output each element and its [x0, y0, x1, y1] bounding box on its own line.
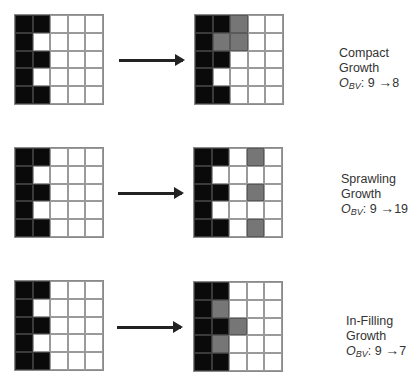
- grid-cell: [15, 148, 33, 166]
- grid-cell: [50, 299, 68, 317]
- metric-to: 7: [399, 344, 406, 358]
- infilling-label: In-Filling Growth OBV: 9 →7: [346, 314, 406, 362]
- grid-cell: [229, 300, 247, 318]
- grid-cell: [85, 68, 103, 86]
- grid-cell: [33, 86, 51, 104]
- grid-cell: [229, 318, 247, 336]
- grid-cell: [247, 318, 265, 336]
- grid-cell: [264, 318, 282, 336]
- grid-cell: [33, 352, 51, 370]
- grid-cell: [85, 352, 103, 370]
- grid-cell: [264, 166, 282, 184]
- grid-cell: [68, 334, 86, 352]
- grid-cell: [213, 15, 231, 33]
- sprawling-title-line2: Growth: [341, 187, 408, 202]
- grid-cell: [213, 33, 231, 51]
- infilling-after-grid: [193, 281, 283, 372]
- grid-cell: [264, 335, 282, 353]
- grid-cell: [33, 166, 51, 184]
- grid-cell: [68, 352, 86, 370]
- grid-cell: [264, 219, 282, 237]
- grid-cell: [33, 33, 51, 51]
- grid-cell: [50, 281, 68, 299]
- grid-cell: [229, 201, 247, 219]
- grid-cell: [229, 148, 247, 166]
- grid-cell: [194, 318, 212, 336]
- grid-cell: [212, 300, 230, 318]
- grid-cell: [213, 68, 231, 86]
- grid-cell: [68, 51, 86, 69]
- grid-cell: [194, 166, 212, 184]
- grid-cell: [50, 334, 68, 352]
- grid-cell: [50, 219, 68, 237]
- grid-cell: [247, 184, 265, 202]
- grid-cell: [212, 219, 230, 237]
- grid-cell: [33, 184, 51, 202]
- grid-cell: [229, 353, 247, 371]
- grid-cell: [33, 317, 51, 335]
- grid-cell: [15, 317, 33, 335]
- grid-cell: [85, 184, 103, 202]
- grid-cell: [50, 51, 68, 69]
- grid-cell: [248, 86, 266, 104]
- grid-cell: [194, 219, 212, 237]
- grid-cell: [85, 148, 103, 166]
- sprawling-metric: OBV: 9 →19: [341, 201, 408, 220]
- grid-cell: [194, 184, 212, 202]
- grid-cell: [33, 51, 51, 69]
- grid-cell: [212, 353, 230, 371]
- grid-cell: [265, 33, 283, 51]
- infilling-before-grid: [14, 280, 104, 371]
- compact-before-grid: [14, 14, 104, 105]
- grid-cell: [50, 184, 68, 202]
- grid-cell: [194, 282, 212, 300]
- grid-cell: [68, 219, 86, 237]
- grid-cell: [50, 33, 68, 51]
- infilling-title-line1: In-Filling: [346, 314, 406, 329]
- right-arrow-icon: →: [378, 74, 392, 90]
- grid-cell: [15, 33, 33, 51]
- grid-cell: [265, 86, 283, 104]
- grid-cell: [15, 299, 33, 317]
- grid-cell: [68, 201, 86, 219]
- grid-cell: [195, 33, 213, 51]
- grid-cell: [247, 300, 265, 318]
- grid-cell: [247, 219, 265, 237]
- grid-cell: [229, 166, 247, 184]
- grid-cell: [230, 51, 248, 69]
- grid-cell: [195, 68, 213, 86]
- grid-cell: [15, 166, 33, 184]
- grid-cell: [15, 352, 33, 370]
- metric-subscript: BV: [351, 207, 363, 217]
- grid-cell: [195, 86, 213, 104]
- grid-cell: [68, 317, 86, 335]
- right-arrow-icon: →: [385, 342, 399, 358]
- grid-cell: [68, 15, 86, 33]
- grid-cell: [213, 51, 231, 69]
- grid-cell: [85, 317, 103, 335]
- grid-cell: [85, 281, 103, 299]
- grid-cell: [265, 51, 283, 69]
- grid-cell: [230, 33, 248, 51]
- grid-cell: [33, 299, 51, 317]
- grid-cell: [15, 201, 33, 219]
- grid-cell: [68, 299, 86, 317]
- right-arrow-icon: →: [380, 200, 394, 216]
- metric-symbol: O: [346, 344, 356, 358]
- grid-cell: [33, 334, 51, 352]
- metric-subscript: BV: [349, 81, 361, 91]
- infilling-title-line2: Growth: [346, 329, 406, 344]
- grid-cell: [85, 15, 103, 33]
- grid-cell: [50, 15, 68, 33]
- grid-cell: [50, 148, 68, 166]
- grid-cell: [68, 33, 86, 51]
- grid-cell: [265, 68, 283, 86]
- grid-cell: [50, 68, 68, 86]
- grid-cell: [68, 148, 86, 166]
- grid-cell: [85, 33, 103, 51]
- grid-cell: [15, 184, 33, 202]
- sprawling-label: Sprawling Growth OBV: 9 →19: [341, 172, 408, 220]
- grid-cell: [230, 15, 248, 33]
- metric-from: 9: [368, 76, 375, 90]
- grid-cell: [15, 86, 33, 104]
